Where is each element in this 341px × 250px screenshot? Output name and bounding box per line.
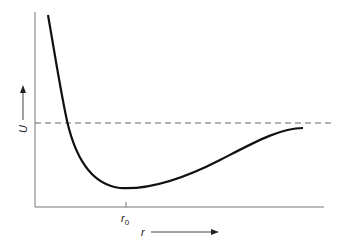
potential-curve bbox=[48, 15, 303, 188]
r0-tick-label: r0 bbox=[121, 212, 130, 227]
y-axis-label: U bbox=[17, 125, 29, 133]
x-axis-label: r bbox=[141, 226, 146, 238]
potential-energy-diagram: r0 r U bbox=[0, 0, 341, 250]
y-arrowhead-icon bbox=[20, 85, 26, 93]
x-arrowhead-icon bbox=[211, 229, 219, 235]
